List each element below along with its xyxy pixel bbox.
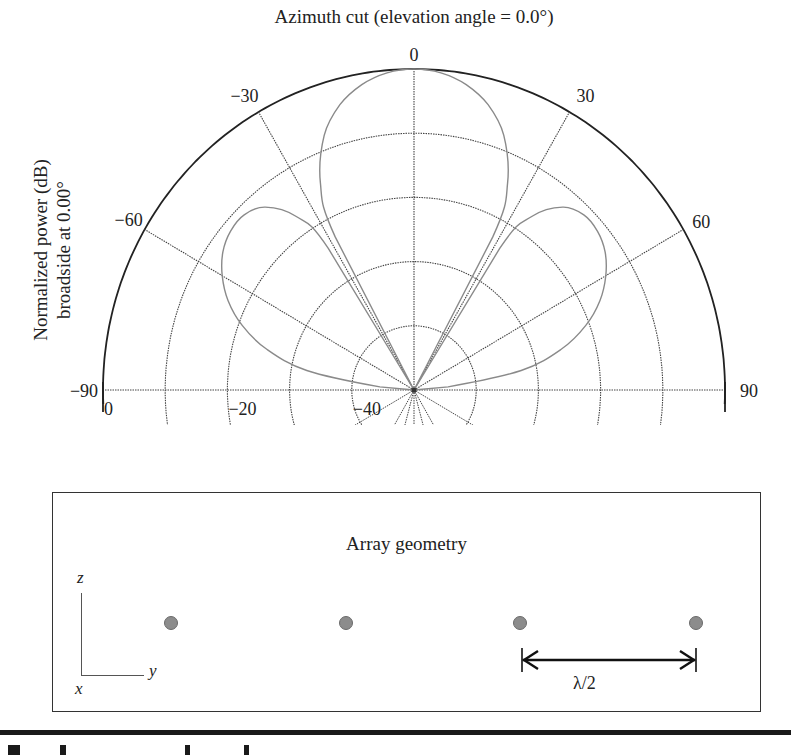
spoke-lower-120	[414, 390, 508, 430]
z-axis-line	[81, 593, 82, 675]
z-axis-label: z	[77, 568, 84, 588]
spoke-30	[414, 112, 570, 390]
radial-tick-label: −20	[228, 399, 256, 419]
spoke-lower--165	[386, 390, 414, 430]
spoke-60	[414, 230, 683, 391]
radial-tick-label: 0	[104, 399, 113, 419]
spoke-lower-150	[414, 390, 468, 430]
angle-tick-label: −60	[115, 210, 143, 230]
array-element	[164, 616, 178, 630]
page-divider	[0, 730, 791, 735]
array-element	[689, 616, 703, 630]
angle-tick-label: 90	[740, 381, 758, 401]
angle-tick-label: 60	[692, 212, 710, 232]
origin-point	[412, 388, 417, 393]
angle-tick-label: −90	[70, 381, 98, 401]
angle-tick-label: 0	[410, 45, 419, 65]
array-element	[339, 616, 353, 630]
x-axis-label: x	[75, 679, 83, 699]
angle-tick-label: −30	[230, 86, 258, 106]
y-axis-label-geom: y	[149, 661, 157, 681]
spoke--30	[259, 112, 415, 390]
spacing-arrow-icon	[520, 647, 698, 673]
spoke--60	[145, 230, 414, 391]
polar-grid	[103, 69, 725, 430]
polar-plot: −90−60−3003060900−20−40	[0, 0, 791, 430]
array-geometry-title: Array geometry	[53, 533, 760, 555]
clipped-caption	[0, 745, 791, 755]
angle-tick-label: 30	[577, 86, 595, 106]
y-axis-line	[81, 675, 144, 676]
spacing-label: λ/2	[573, 673, 596, 694]
spoke-lower-165	[414, 390, 442, 430]
array-geometry-panel: Array geometry z y x λ/2	[52, 492, 761, 712]
array-element	[513, 616, 527, 630]
radial-tick-label: −40	[353, 399, 381, 419]
